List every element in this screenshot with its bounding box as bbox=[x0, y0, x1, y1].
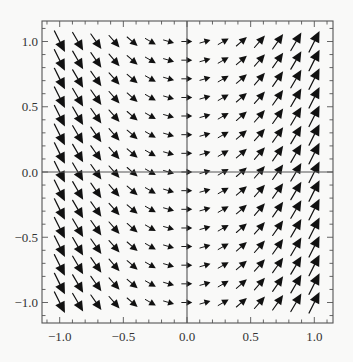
vector-arrow bbox=[145, 262, 156, 268]
vector-arrow bbox=[164, 299, 175, 305]
vector-arrow bbox=[91, 109, 102, 124]
vector-arrow bbox=[200, 206, 211, 212]
vector-arrow bbox=[109, 147, 120, 159]
vector-arrow bbox=[218, 57, 229, 63]
vector-arrow bbox=[273, 258, 284, 273]
vector-arrow bbox=[91, 34, 102, 49]
vector-arrow bbox=[54, 50, 64, 71]
vector-arrow bbox=[254, 222, 265, 234]
vector-arrow bbox=[200, 188, 211, 194]
vector-arrow bbox=[200, 76, 211, 82]
vector-arrow bbox=[309, 255, 320, 276]
vector-arrow bbox=[164, 243, 175, 249]
vector-arrow bbox=[291, 238, 302, 256]
vector-arrow bbox=[145, 131, 156, 137]
vector-arrow bbox=[236, 261, 247, 270]
vector-arrow bbox=[91, 183, 102, 198]
vector-arrow bbox=[291, 275, 302, 293]
vector-arrow bbox=[109, 129, 120, 141]
x-tick-label: 0.5 bbox=[243, 329, 259, 344]
vector-arrow bbox=[91, 71, 102, 86]
vector-arrow bbox=[236, 112, 247, 121]
vector-arrow bbox=[254, 36, 265, 48]
vector-arrow bbox=[291, 107, 302, 125]
vector-arrow bbox=[91, 127, 102, 142]
vector-arrow bbox=[127, 130, 138, 139]
vector-arrow bbox=[54, 87, 64, 108]
vector-arrow bbox=[218, 225, 229, 231]
vector-arrow bbox=[73, 70, 84, 88]
vector-arrow bbox=[164, 206, 175, 212]
vector-arrow bbox=[145, 150, 156, 156]
vector-arrow bbox=[54, 236, 64, 257]
vector-arrow bbox=[73, 219, 84, 237]
y-tick-label: 1.0 bbox=[22, 34, 38, 49]
vector-arrow bbox=[127, 261, 138, 270]
vector-arrow bbox=[200, 281, 211, 287]
vector-arrow bbox=[273, 295, 284, 310]
vector-arrow bbox=[236, 298, 247, 307]
vector-arrow bbox=[54, 255, 64, 276]
vector-arrow bbox=[73, 107, 84, 125]
vector-arrow bbox=[145, 113, 156, 119]
vector-arrow bbox=[145, 76, 156, 82]
vector-arrow bbox=[73, 126, 84, 144]
vector-arrow bbox=[127, 74, 138, 83]
vector-arrow bbox=[164, 150, 175, 156]
vector-arrow bbox=[254, 147, 265, 159]
vector-arrow bbox=[254, 259, 265, 271]
vector-arrow bbox=[309, 199, 320, 220]
vector-arrow bbox=[218, 244, 229, 250]
vector-arrow bbox=[291, 126, 302, 144]
vector-arrow bbox=[218, 188, 229, 194]
vector-arrow bbox=[200, 225, 211, 231]
vector-arrow bbox=[54, 273, 64, 294]
vector-arrow bbox=[254, 110, 265, 122]
vector-arrow bbox=[236, 223, 247, 232]
vector-arrow bbox=[73, 33, 84, 51]
vector-arrow bbox=[127, 37, 138, 46]
vector-arrow bbox=[127, 279, 138, 288]
vector-arrow bbox=[164, 281, 175, 287]
vector-arrow bbox=[54, 180, 64, 201]
vector-arrow bbox=[218, 132, 229, 138]
vector-arrow bbox=[54, 106, 64, 127]
vector-arrow bbox=[254, 297, 265, 309]
y-tick-label: −0.5 bbox=[14, 230, 38, 245]
vector-arrow bbox=[91, 258, 102, 273]
vector-arrow bbox=[127, 242, 138, 251]
vector-arrow bbox=[91, 295, 102, 310]
vector-arrow bbox=[218, 38, 229, 44]
vector-arrow bbox=[164, 187, 175, 193]
vector-arrow bbox=[309, 106, 320, 127]
vector-arrow bbox=[291, 256, 302, 274]
vector-arrow bbox=[236, 279, 247, 288]
vector-arrow bbox=[291, 51, 302, 69]
vector-field-plot: −1.0−0.50.00.51.0 −1.0−0.50.00.51.0 bbox=[0, 0, 353, 362]
vector-arrow bbox=[309, 236, 320, 257]
vector-arrow bbox=[200, 150, 211, 156]
vector-arrow bbox=[236, 37, 247, 46]
vector-arrow bbox=[200, 262, 211, 268]
vector-arrow bbox=[254, 54, 265, 66]
vector-arrow bbox=[109, 91, 120, 103]
vector-arrow bbox=[273, 127, 284, 142]
vector-arrow bbox=[127, 149, 138, 158]
vector-arrow bbox=[218, 281, 229, 287]
vector-arrow bbox=[109, 278, 120, 290]
vector-arrow bbox=[200, 132, 211, 138]
vector-arrow bbox=[73, 88, 84, 106]
vector-arrow bbox=[254, 91, 265, 103]
vector-arrow bbox=[273, 239, 284, 254]
vector-arrow bbox=[73, 238, 84, 256]
vector-arrow bbox=[273, 146, 284, 161]
vector-arrow bbox=[109, 36, 120, 48]
vector-arrow bbox=[127, 112, 138, 121]
vector-arrow bbox=[291, 33, 302, 51]
vector-arrow bbox=[54, 292, 64, 313]
vector-arrow bbox=[127, 93, 138, 102]
vector-arrow bbox=[109, 54, 120, 66]
x-tick-labels: −1.0−0.50.00.51.0 bbox=[48, 329, 323, 344]
vector-arrow bbox=[91, 146, 102, 161]
vector-arrow bbox=[254, 241, 265, 253]
